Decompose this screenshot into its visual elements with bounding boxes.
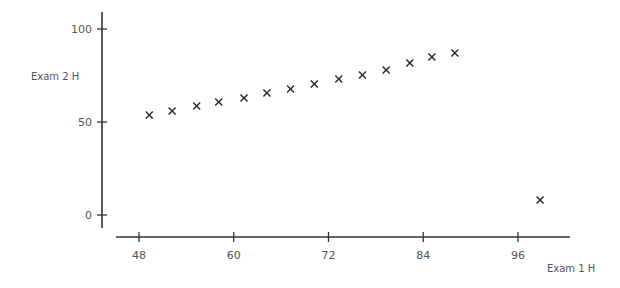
data-point-x-marker	[287, 86, 294, 93]
y-tick-label: 50	[78, 116, 92, 129]
y-tick-label: 0	[85, 209, 92, 222]
data-point-x-marker	[215, 98, 222, 105]
data-point-x-marker	[406, 60, 413, 67]
x-tick-label: 96	[511, 249, 525, 262]
y-tick-label: 100	[71, 23, 92, 36]
x-tick-label: 72	[322, 249, 336, 262]
y-axis: 050100 Exam 2 H	[31, 12, 107, 228]
data-point-x-marker	[169, 108, 176, 115]
scatter-chart: 050100 Exam 2 H 4860728496 Exam 1 H	[0, 0, 620, 288]
data-point-x-marker	[241, 95, 248, 102]
x-tick-label: 60	[227, 249, 241, 262]
data-point-x-marker	[359, 71, 366, 78]
x-axis: 4860728496 Exam 1 H	[116, 232, 595, 274]
data-point-x-marker	[451, 49, 458, 56]
x-tick-label: 48	[132, 249, 146, 262]
data-point-x-marker	[335, 76, 342, 83]
data-point-x-marker	[383, 66, 390, 73]
data-point-x-marker	[193, 103, 200, 110]
data-points	[146, 49, 544, 203]
data-point-x-marker	[311, 81, 318, 88]
x-axis-title: Exam 1 H	[547, 263, 595, 274]
y-axis-title: Exam 2 H	[31, 71, 79, 82]
data-point-x-marker	[537, 196, 544, 203]
data-point-x-marker	[428, 54, 435, 61]
data-point-x-marker	[146, 111, 153, 118]
data-point-x-marker	[263, 89, 270, 96]
x-tick-label: 84	[416, 249, 430, 262]
